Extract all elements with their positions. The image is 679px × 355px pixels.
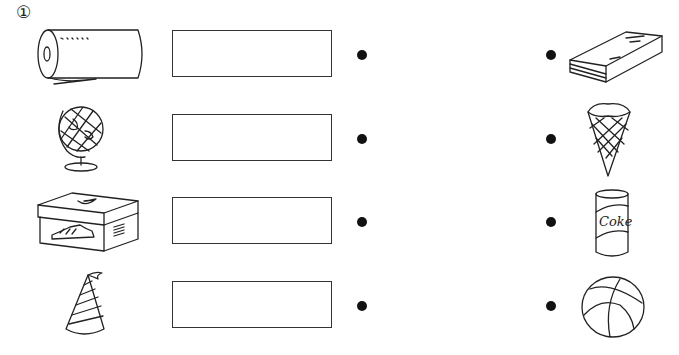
- answer-box-2[interactable]: [172, 114, 332, 161]
- right-match-dot-1[interactable]: [546, 50, 556, 60]
- soda-can-icon: Coke: [592, 188, 632, 260]
- answer-box-1[interactable]: [172, 30, 332, 77]
- left-match-dot-3[interactable]: [357, 217, 367, 227]
- left-match-dot-1[interactable]: [357, 50, 367, 60]
- ball-icon: [580, 275, 646, 339]
- shoe-box-icon: [36, 191, 140, 253]
- globe-icon: [55, 101, 105, 173]
- answer-box-3[interactable]: [172, 197, 332, 244]
- ice-cream-cone-icon: [584, 100, 634, 180]
- answer-box-4[interactable]: [172, 281, 332, 328]
- right-match-dot-3[interactable]: [546, 217, 556, 227]
- paper-towel-roll-icon: [36, 26, 148, 86]
- right-match-dot-2[interactable]: [546, 134, 556, 144]
- book-icon: [566, 28, 666, 86]
- right-match-dot-4[interactable]: [546, 301, 556, 311]
- coke-label: Coke: [599, 214, 632, 229]
- left-match-dot-4[interactable]: [357, 301, 367, 311]
- party-hat-icon: [64, 269, 114, 339]
- left-match-dot-2[interactable]: [357, 134, 367, 144]
- exercise-number: ①: [16, 2, 31, 22]
